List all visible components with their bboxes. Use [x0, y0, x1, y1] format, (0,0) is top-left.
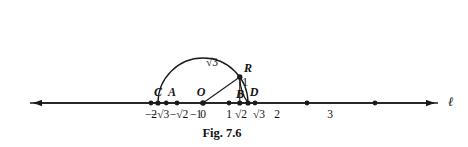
figure-container: C A O B D R √3 1 −2 −√3 −√2 −1 0 1 √2 √3…	[0, 0, 468, 147]
tick-dot-minus-sqrt2	[164, 101, 169, 106]
tick-label-sqrt2: √2	[235, 109, 247, 121]
tick-label-sqrt3: √3	[253, 109, 265, 121]
point-label-B: B	[236, 88, 244, 100]
figure-caption: Fig. 7.6	[202, 126, 241, 141]
tick-dot-minus-sqrt3	[155, 100, 160, 105]
segment-length-label-BR: 1	[242, 77, 248, 89]
tick-label-minus-sqrt3: −√3	[151, 109, 170, 121]
tick-dot-minus-2	[149, 101, 154, 106]
tick-label-minus-sqrt2: −√2	[170, 109, 189, 121]
tick-dot-2	[253, 101, 258, 106]
point-label-A: A	[168, 86, 176, 98]
point-label-D: D	[250, 86, 259, 98]
tick-label-1: 1	[226, 109, 232, 121]
tick-dot-minus-1	[175, 101, 180, 106]
tick-label-2: 2	[274, 109, 280, 121]
segment-OR	[203, 77, 240, 103]
point-label-O: O	[197, 86, 206, 98]
tick-label-3: 3	[327, 109, 333, 121]
segment-length-label-OR: √3	[206, 57, 218, 69]
tick-dot-unlabeled-right	[373, 101, 378, 106]
tick-dot-3	[305, 101, 310, 106]
point-label-C: C	[154, 86, 162, 98]
line-name-label-ell: ℓ	[448, 95, 453, 108]
tick-dot-sqrt2	[237, 100, 242, 105]
tick-dot-sqrt3	[245, 100, 250, 105]
number-line-diagram	[0, 0, 468, 147]
tick-dot-1	[227, 101, 232, 106]
tick-dot-zero	[200, 100, 206, 106]
tick-label-zero: 0	[200, 109, 206, 121]
point-label-R: R	[244, 62, 252, 74]
